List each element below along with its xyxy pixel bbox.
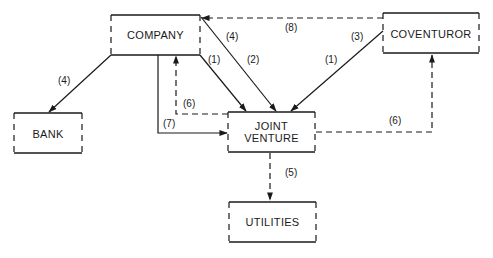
node-bank: BANK (14, 113, 82, 153)
edge-label: (4) (58, 75, 70, 86)
edge-label: (6) (389, 115, 401, 126)
node-utilities: UTILITIES (229, 202, 316, 242)
coventuror-label: COVENTUROR (390, 28, 471, 40)
edge-company-to-jv-7: (7) (158, 55, 227, 133)
joint-venture-label-line2: VENTURE (244, 132, 299, 144)
company-label: COMPANY (127, 29, 184, 41)
edge-company-to-jv-1: (1) (200, 54, 246, 111)
edge-label: (5) (285, 167, 297, 178)
edge-label-3: (3) (351, 31, 363, 42)
joint-venture-label-line1: JOINT (255, 120, 288, 132)
edge-label-2: (2) (247, 54, 259, 65)
edge-label: (6) (183, 98, 195, 109)
edge-jv-to-coventuror-6: (6) (316, 55, 432, 132)
edge-label-1: (1) (325, 54, 337, 65)
edge-label: (8) (285, 22, 297, 33)
edge-company-to-bank: (4) (49, 55, 111, 112)
node-joint-venture: JOINT VENTURE (228, 112, 315, 152)
edge-jv-to-utilities: (5) (270, 153, 297, 200)
bank-label: BANK (32, 128, 64, 140)
node-coventuror: COVENTUROR (383, 13, 479, 53)
joint-venture-flow-diagram: COMPANY COVENTUROR BANK JOINT VENTURE UT… (0, 0, 493, 258)
utilities-label: UTILITIES (245, 216, 299, 228)
edge-label-4: (4) (226, 31, 238, 42)
edge-label: (1) (208, 54, 220, 65)
edge-label: (7) (163, 118, 175, 129)
edge-coventuror-to-jv: (3) (1) (291, 31, 383, 111)
node-company: COMPANY (111, 15, 200, 55)
